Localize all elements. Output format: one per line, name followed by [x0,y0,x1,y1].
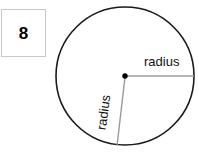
radius-label-diagonal: radius [94,93,114,131]
circle-diagram: radius radius [0,0,199,154]
center-point-dot [122,73,127,78]
radius-label-horizontal: radius [144,54,180,69]
diagonal-radius-line [117,77,125,146]
figure-root: 8 radius radius [0,0,199,154]
